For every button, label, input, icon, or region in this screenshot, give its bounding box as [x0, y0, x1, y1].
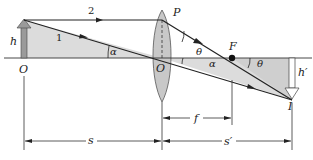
focal-point-dot [229, 55, 235, 61]
label-theta-focus: θ [257, 58, 263, 69]
label-object-point-O: O [19, 63, 28, 76]
label-f: f [193, 112, 200, 125]
label-s-prime: s′ [224, 135, 233, 148]
label-h: h [10, 35, 17, 48]
label-theta-lens: θ [196, 46, 202, 57]
label-P: P [172, 6, 181, 19]
ray-2-refracted-arrowhead [193, 38, 203, 44]
thin-lens-diagram: h O 1 2 α P O θ F α θ h′ I f s s′ [0, 0, 313, 160]
label-h-prime: h′ [298, 66, 308, 79]
label-ray-1: 1 [56, 32, 62, 43]
label-s: s [88, 134, 94, 147]
ray-2-arrowhead [96, 18, 103, 23]
label-alpha-right: α [209, 58, 216, 69]
label-ray-2: 2 [88, 5, 94, 16]
label-alpha-left: α [110, 46, 117, 57]
label-lens-center-O: O [156, 62, 165, 75]
label-F: F [228, 40, 237, 53]
